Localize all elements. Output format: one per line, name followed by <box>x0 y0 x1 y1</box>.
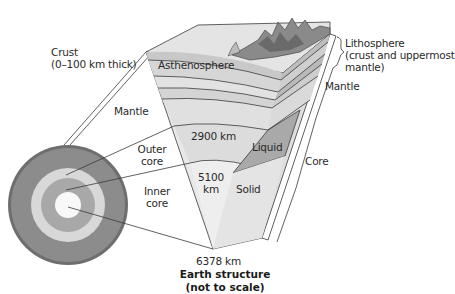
crust-thickness-label: (0–100 km thick) <box>51 58 137 70</box>
earth-wedge <box>146 18 336 249</box>
mantle-left-label: Mantle <box>114 105 148 117</box>
inner-core-label-line1: Inner <box>141 185 173 197</box>
diagram-title: Earth structure (not to scale) <box>175 258 275 294</box>
lithosphere-desc-line2: mantle) <box>345 61 385 73</box>
crust-label: Crust <box>51 46 78 58</box>
lithosphere-desc-line1: (crust and uppermost <box>345 49 455 61</box>
asthenosphere-label: Asthenosphere <box>158 59 234 71</box>
core-right-label: Core <box>305 155 329 167</box>
depth-5100-label-line1: 5100 <box>196 171 226 183</box>
depth-2900-label: 2900 km <box>191 130 236 142</box>
lithosphere-label: Lithosphere <box>345 37 405 49</box>
liquid-label: Liquid <box>252 141 282 153</box>
inner-core-label-line2: core <box>141 197 173 209</box>
depth-5100-label-line2: km <box>196 183 226 195</box>
title-line1: Earth structure <box>175 268 275 281</box>
outer-core-label-line1: Outer <box>136 143 168 155</box>
earth-cross-section <box>8 145 128 265</box>
outer-core-label-line2: core <box>136 155 168 167</box>
title-line2: (not to scale) <box>175 281 275 294</box>
mantle-right-label: Mantle <box>325 80 359 92</box>
solid-label: Solid <box>236 183 261 195</box>
